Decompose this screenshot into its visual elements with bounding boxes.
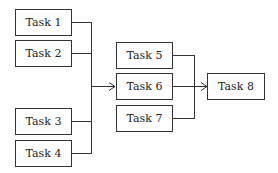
task-5-node: Task 5: [116, 42, 173, 69]
task-7-label: Task 7: [127, 112, 163, 125]
task-1-node: Task 1: [15, 9, 72, 36]
task-6-label: Task 6: [127, 80, 163, 93]
task-6-node: Task 6: [116, 73, 173, 100]
task-2-node: Task 2: [15, 40, 72, 67]
task-7-node: Task 7: [116, 105, 173, 132]
task-5-label: Task 5: [127, 49, 163, 62]
task-4-node: Task 4: [15, 140, 72, 167]
task-4-label: Task 4: [26, 147, 62, 160]
task-3-label: Task 3: [26, 115, 62, 128]
task-3-node: Task 3: [15, 108, 72, 135]
task-1-label: Task 1: [26, 16, 62, 29]
task-8-node: Task 8: [207, 73, 265, 100]
task-2-label: Task 2: [26, 47, 62, 60]
task-8-label: Task 8: [218, 80, 254, 93]
